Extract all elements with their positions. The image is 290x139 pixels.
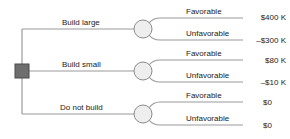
chance-node-do-not-build [134,105,152,123]
outcome-label-build-small-favorable: Favorable [186,49,222,59]
payoff-build-large-favorable: $400 K [246,13,286,23]
payoff-build-small-unfavorable: –$10 K [246,78,286,88]
payoff-do-not-build-favorable: $0 [232,98,272,108]
outcome-line-do-not-build-favorable [149,102,243,108]
alternative-label-do-not-build: Do not build [60,103,103,113]
outcome-line-build-large-favorable [149,18,243,23]
chance-node-build-small [134,62,152,80]
payoff-do-not-build-unfavorable: $0 [232,121,272,131]
chance-node-build-large [134,20,152,38]
outcome-label-build-small-unfavorable: Unfavorable [186,71,229,81]
outcome-line-build-small-favorable [149,60,243,65]
alternative-label-build-small: Build small [62,60,101,70]
decision-node [15,64,29,78]
payoff-build-small-favorable: $80 K [246,56,286,66]
outcome-label-do-not-build-unfavorable: Unfavorable [186,114,229,124]
outcome-label-build-large-unfavorable: Unfavorable [186,29,229,39]
alternative-label-build-large: Build large [62,18,100,28]
outcome-label-do-not-build-favorable: Favorable [186,91,222,101]
payoff-build-large-unfavorable: –$300 K [246,36,286,46]
outcome-label-build-large-favorable: Favorable [186,7,222,17]
